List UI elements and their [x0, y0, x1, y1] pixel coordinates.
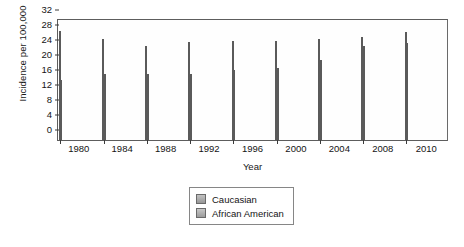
bar-group: [317, 20, 360, 140]
bar-group: [274, 20, 317, 140]
bar-group: [188, 20, 231, 140]
x-axis-title: Year: [57, 161, 448, 172]
x-tick-mark: [363, 140, 364, 144]
x-tick-label: 2004: [329, 143, 350, 154]
legend-swatch-icon: [196, 194, 206, 204]
x-tick-mark: [147, 140, 148, 144]
x-tick-mark: [406, 140, 407, 144]
bar-group: [361, 20, 404, 140]
bar-african-american: [147, 74, 149, 140]
bar-african-american: [320, 60, 322, 140]
bar-chart-figure: Incidence per 100,000 048121620242832 19…: [0, 0, 464, 247]
x-tick-label: 1996: [242, 143, 263, 154]
x-tick-label: 2008: [372, 143, 393, 154]
x-tick-label: 1980: [68, 143, 89, 154]
y-tick-label: 28: [41, 19, 58, 30]
bar-african-american: [233, 70, 235, 141]
y-tick-label: 24: [41, 34, 58, 45]
chart-legend: CaucasianAfrican American: [189, 187, 294, 225]
bar-african-american: [277, 68, 279, 140]
y-tick-label: 16: [41, 64, 58, 75]
legend-swatch-icon: [196, 208, 206, 218]
x-tick-mark: [104, 140, 105, 144]
bar-group: [101, 20, 144, 140]
bar-african-american: [104, 74, 106, 140]
y-axis-title: Incidence per 100,000: [17, 0, 28, 124]
x-tick-label: 1988: [155, 143, 176, 154]
bar-group: [231, 20, 274, 140]
x-tick-label: 2010: [416, 143, 437, 154]
x-tick-mark: [277, 140, 278, 144]
x-tick-mark: [233, 140, 234, 144]
y-tick-label: 12: [41, 79, 58, 90]
legend-label: African American: [212, 208, 284, 219]
y-tick-label: 32: [41, 4, 58, 15]
y-tick-label: 20: [41, 49, 58, 60]
legend-label: Caucasian: [212, 194, 257, 205]
bar-african-american: [406, 43, 408, 140]
bar-series-container: [58, 20, 447, 140]
y-tick-label: 4: [47, 109, 58, 120]
legend-item: African American: [196, 206, 284, 220]
x-tick-label: 1984: [112, 143, 133, 154]
y-tick-label: 0: [47, 124, 58, 135]
x-tick-mark: [60, 140, 61, 144]
bar-african-american: [60, 80, 62, 140]
bar-african-american: [363, 46, 365, 140]
bar-group: [144, 20, 187, 140]
x-tick-label: 1992: [198, 143, 219, 154]
x-tick-mark: [190, 140, 191, 144]
plot-area: 048121620242832: [57, 19, 448, 141]
y-tick-label: 8: [47, 94, 58, 105]
bar-african-american: [190, 74, 192, 140]
legend-item: Caucasian: [196, 192, 284, 206]
bar-group: [404, 20, 447, 140]
x-tick-label: 2000: [285, 143, 306, 154]
x-tick-mark: [320, 140, 321, 144]
bar-group: [58, 20, 101, 140]
